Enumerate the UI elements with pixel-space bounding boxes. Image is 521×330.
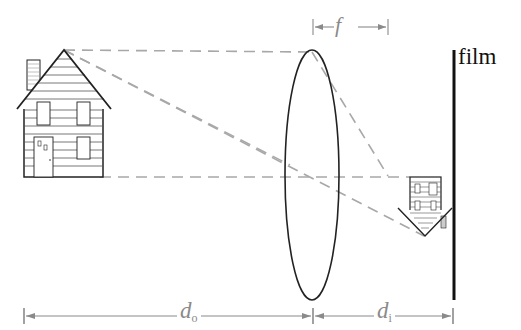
focal-length-label: f [335, 12, 341, 38]
focal-length-marker [313, 19, 388, 35]
object-house [17, 50, 111, 177]
lens [285, 50, 339, 300]
object-distance-main: d [180, 298, 192, 323]
image-distance-main: d [377, 298, 389, 323]
object-distance-sub: o [192, 311, 198, 325]
ray-parallel [64, 50, 312, 52]
film-label: film [458, 44, 496, 70]
ray-refracted [312, 52, 388, 176]
image-walls [410, 177, 441, 214]
door [34, 137, 53, 177]
rays [64, 50, 424, 236]
window [77, 137, 90, 159]
image-distance-label: di [374, 298, 395, 326]
lens-diagram [0, 0, 521, 330]
object-distance-label: do [177, 298, 201, 326]
window [37, 102, 50, 125]
image-distance-sub: i [389, 311, 392, 325]
window [77, 102, 90, 125]
